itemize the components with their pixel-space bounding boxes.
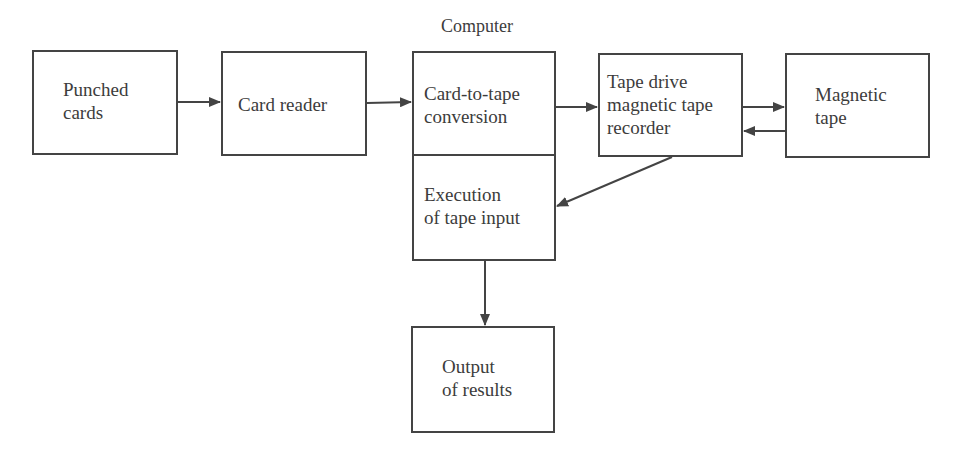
connector-arrows — [0, 0, 953, 459]
arrow-drive-to-execution — [557, 157, 672, 206]
arrow-reader-to-computer — [367, 102, 411, 103]
